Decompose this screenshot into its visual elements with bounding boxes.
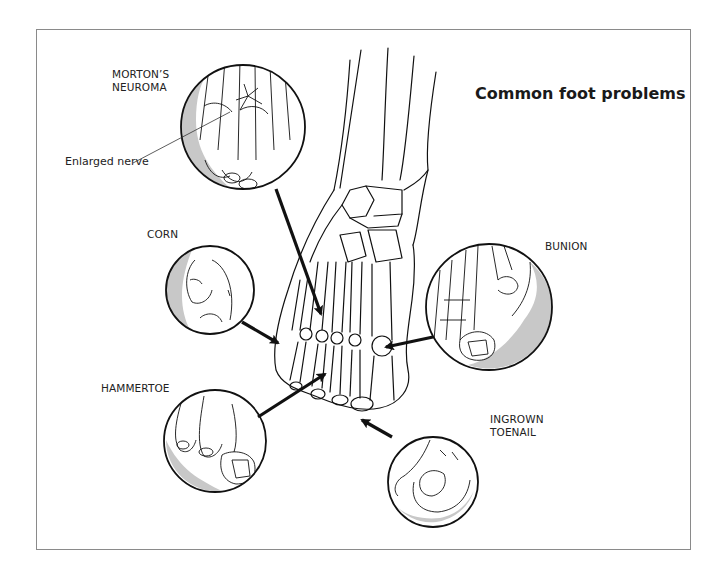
inset-corn	[165, 246, 254, 334]
label-bunion: BUNION	[545, 240, 588, 253]
label-ingrown-toenail: INGROWN TOENAIL	[490, 413, 544, 439]
inset-bunion	[426, 244, 552, 370]
arrows	[242, 189, 433, 437]
inset-hammertoe	[164, 390, 266, 492]
arrow-corn	[242, 322, 278, 343]
label-enlarged-nerve: Enlarged nerve	[65, 155, 149, 168]
label-corn: CORN	[147, 228, 178, 241]
arrow-bunion	[386, 337, 433, 347]
inset-ingrown-toenail	[388, 437, 478, 527]
arrow-ingrown-toenail	[362, 420, 392, 437]
label-mortons-neuroma: MORTON’S NEUROMA	[112, 68, 169, 94]
label-hammertoe: HAMMERTOE	[101, 382, 170, 395]
figure-title: Common foot problems	[475, 84, 686, 103]
inset-mortons-neuroma	[181, 60, 305, 189]
